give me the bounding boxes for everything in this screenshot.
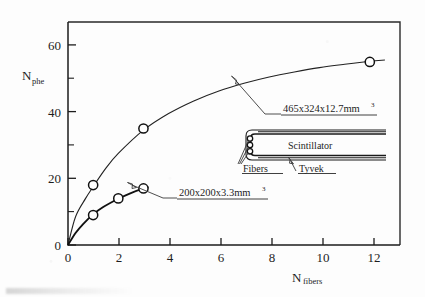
annotation-upper-arrowhead (232, 76, 240, 85)
x-tick-label-0: 0 (65, 250, 72, 265)
y-tick-label-0: 0 (55, 238, 62, 253)
x-axis-ticks (68, 238, 374, 245)
y-tick-label-20: 20 (48, 171, 61, 186)
y-axis-title-subscript: phe (32, 76, 45, 86)
data-point (139, 124, 148, 133)
y-tick-label-40: 40 (48, 105, 61, 120)
x-axis-title: N fibers (292, 270, 322, 286)
figure-container: 0 20 40 60 0 2 4 6 8 10 12 N ph (0, 0, 425, 297)
chart-svg: 0 20 40 60 0 2 4 6 8 10 12 N ph (0, 0, 425, 297)
annotation-upper-text: 465x324x12.7mm (283, 103, 360, 114)
annotation-lower-text: 200x200x3.3mm (179, 187, 250, 198)
series-markers-lower (89, 184, 148, 220)
y-axis-tick-labels: 0 20 40 60 (48, 38, 61, 253)
y-axis-title: N phe (22, 68, 45, 86)
series-curve-upper (68, 60, 385, 245)
x-tick-label-6: 6 (218, 250, 225, 265)
inset-label-fibers: Fibers (243, 163, 268, 174)
x-tick-label-12: 12 (368, 250, 381, 265)
inset-label-scintillator: Scintillator (288, 140, 333, 151)
data-point (365, 57, 374, 66)
data-point (89, 210, 98, 219)
series-curve-lower (68, 187, 148, 245)
annotation-upper: 465x324x12.7mm 3 (232, 76, 378, 115)
data-point (114, 194, 123, 203)
annotation-upper-superscript: 3 (371, 101, 375, 109)
x-tick-label-2: 2 (116, 250, 123, 265)
tyvek-arrowhead (289, 158, 294, 164)
tyvek-leader (291, 161, 297, 172)
x-axis-title-subscript: fibers (303, 276, 322, 286)
x-tick-label-8: 8 (269, 250, 276, 265)
y-axis-title-main: N (22, 68, 32, 83)
annotation-lower-arrowhead (128, 183, 137, 189)
y-tick-label-60: 60 (48, 38, 61, 53)
annotation-lower: 200x200x3.3mm 3 (128, 183, 269, 200)
annotation-lower-superscript: 3 (262, 185, 266, 193)
inset-schematic: Scintillator Fibers Tyvek (238, 130, 386, 174)
inset-label-tyvek: Tyvek (299, 163, 324, 174)
series-markers-upper (89, 57, 375, 189)
x-tick-label-4: 4 (167, 250, 174, 265)
x-tick-label-10: 10 (317, 250, 330, 265)
y-axis-ticks (68, 45, 76, 245)
x-axis-title-main: N (292, 270, 302, 285)
x-axis-tick-labels: 0 2 4 6 8 10 12 (65, 250, 381, 265)
data-series (68, 57, 385, 245)
data-point (89, 180, 98, 189)
annotation-upper-leader (236, 81, 265, 114)
